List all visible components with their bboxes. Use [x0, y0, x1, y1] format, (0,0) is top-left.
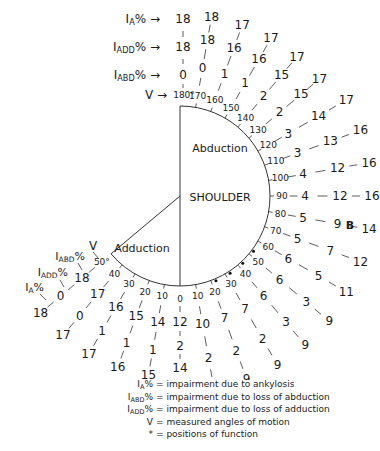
angle-label: 30 — [225, 279, 237, 289]
connector-line — [199, 78, 200, 86]
arrow-line — [40, 294, 46, 300]
connector-line — [299, 265, 308, 270]
legend-description: = impairment due to loss of adduction — [156, 403, 330, 416]
function-position-dot — [241, 262, 244, 265]
tick-mark — [258, 241, 261, 243]
ia-value: 9 — [326, 314, 334, 328]
connector-line — [269, 82, 275, 90]
iadd-value: 1 — [149, 343, 157, 357]
ia-value: 14 — [361, 222, 376, 236]
iadd-value: 9 — [334, 217, 342, 231]
iadd-value: 3 — [303, 295, 311, 309]
angle-label: 70 — [270, 226, 282, 236]
ia-value: 14 — [172, 361, 187, 375]
iabd-value: 6 — [284, 252, 292, 266]
iadd-value: 15 — [274, 68, 289, 82]
shoulder-title: SHOULDER — [189, 191, 251, 204]
iabd-value: 18 — [74, 271, 89, 285]
ia-value: 9 — [274, 358, 282, 372]
connector-line — [309, 243, 318, 246]
connector-line — [150, 358, 151, 366]
tick-mark — [238, 265, 241, 268]
legend-description: = impairment due to loss of abduction — [156, 391, 330, 404]
connector-line — [329, 106, 336, 110]
connector-line — [289, 288, 297, 294]
angle-label: 100 — [272, 173, 289, 183]
legend-description: = impairment due to ankylosis — [156, 378, 294, 391]
connector-line — [94, 339, 98, 346]
connector-line — [68, 285, 74, 290]
iadd-adduction-label: IADD% — [38, 266, 68, 280]
angle-label: 110 — [267, 156, 284, 166]
connector-line — [329, 282, 336, 286]
connector-line — [218, 83, 221, 91]
iabd-value: 5 — [299, 211, 307, 225]
connector-line — [272, 305, 278, 313]
iabd-value: 4 — [299, 167, 307, 181]
tick-mark — [211, 281, 212, 285]
ia-value: 18 — [204, 10, 219, 24]
angle-label: 40 — [109, 269, 121, 279]
connector-line — [309, 146, 318, 149]
iadd-value: 12 — [332, 189, 347, 203]
connector-line — [209, 25, 210, 33]
function-position-dot — [229, 272, 232, 275]
iabd-value: 7 — [221, 311, 229, 325]
angle-label: 50° — [94, 257, 110, 267]
angle-label: 140 — [237, 113, 254, 123]
function-position-dot — [252, 250, 255, 253]
tick-mark — [225, 115, 227, 118]
angle-label: 120 — [260, 140, 277, 150]
iabd-value: 10 — [195, 317, 210, 331]
connector-line — [107, 316, 111, 323]
connector-line — [237, 32, 240, 40]
tick-mark — [196, 285, 197, 289]
tick-mark — [164, 285, 165, 289]
connector-line — [121, 351, 124, 359]
angle-label: 160 — [206, 95, 223, 105]
iabd-value: 3 — [294, 146, 302, 160]
tick-mark — [120, 265, 123, 268]
iabd-value: 6 — [276, 273, 284, 287]
connector-line — [315, 170, 325, 172]
connector-line — [283, 233, 291, 236]
iabd-value: 17 — [90, 287, 105, 301]
connector-line — [252, 104, 257, 110]
iadd-value: 15 — [293, 87, 308, 101]
angle-label: 20 — [139, 287, 151, 297]
angle-label: 20 — [209, 287, 221, 297]
ia-header-label: IA% → — [126, 12, 160, 27]
iabd-value: 4 — [301, 189, 309, 203]
ia-value: 17 — [312, 72, 327, 86]
ia-value: 17 — [55, 328, 70, 342]
iabd-adduction-label: IABD% — [55, 250, 85, 264]
connector-line — [275, 251, 282, 255]
iabd-value: 15 — [129, 309, 144, 323]
ia-value: 17 — [263, 31, 278, 45]
ia-value: 18 — [33, 306, 48, 320]
connector-line — [121, 292, 125, 299]
iabd-value: 14 — [150, 315, 165, 329]
connector-line — [293, 331, 298, 337]
iabd-value: 6 — [260, 289, 268, 303]
function-position-dot — [214, 279, 217, 282]
ia-value: 16 — [364, 189, 379, 203]
tick-mark — [269, 212, 273, 213]
connector-line — [159, 305, 160, 313]
iabd-value: 0 — [199, 61, 207, 75]
connector-line — [342, 255, 350, 258]
connector-line — [228, 56, 231, 65]
abduction-label: Abduction — [192, 142, 248, 155]
connector-line — [218, 301, 221, 309]
ia-value: 17 — [235, 18, 250, 32]
iadd-value: 1 — [98, 324, 106, 338]
connector-line — [211, 369, 212, 377]
iadd-value: 2 — [176, 339, 184, 353]
ia-value: 16 — [110, 360, 125, 374]
iadd-value: 2 — [259, 332, 267, 346]
iadd-value: 13 — [323, 134, 338, 148]
ia-value: 17 — [339, 93, 354, 107]
angle-label: 10 — [192, 291, 204, 301]
connector-line — [252, 282, 257, 288]
iabd-value: 1 — [221, 67, 229, 81]
